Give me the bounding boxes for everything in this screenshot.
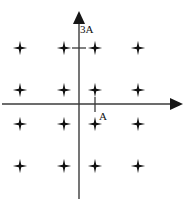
constellation-svg-canvas: A 3A [0, 0, 190, 202]
horizontal-axis-arrowhead [170, 98, 183, 110]
constellation-point [131, 41, 145, 55]
x-axis-tick-label: A [99, 110, 107, 122]
constellation-point [57, 83, 71, 97]
constellation-point [13, 41, 27, 55]
constellation-point [57, 117, 71, 131]
constellation-point [13, 117, 27, 131]
constellation-point [57, 159, 71, 173]
constellation-point [13, 159, 27, 173]
vertical-axis: 3A [72, 11, 94, 199]
y-axis-tick-label: 3A [80, 23, 94, 35]
constellation-point [57, 41, 71, 55]
constellation-point [88, 41, 102, 55]
constellation-diagram-figure: A 3A [0, 0, 190, 202]
constellation-point [13, 83, 27, 97]
constellation-point [131, 159, 145, 173]
constellation-point [131, 83, 145, 97]
horizontal-axis: A [2, 97, 183, 122]
constellation-point [131, 117, 145, 131]
constellation-point [88, 159, 102, 173]
constellation-point [88, 83, 102, 97]
